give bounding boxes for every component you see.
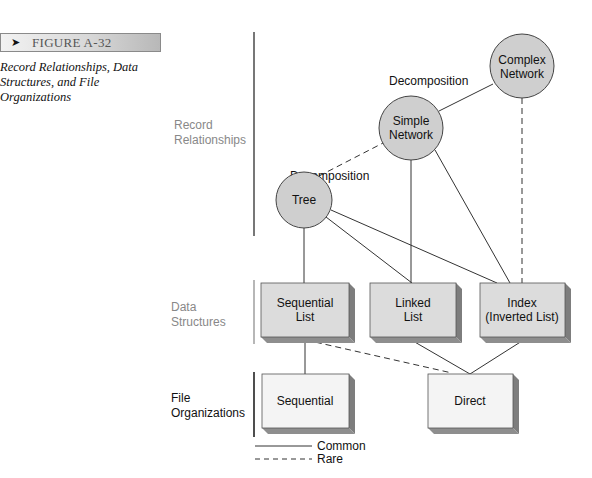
- node-label: Sequential: [277, 296, 334, 310]
- node-direct-file: Direct: [428, 374, 519, 434]
- edge-simple-complex-network: [439, 84, 493, 111]
- node-label: (Inverted List): [485, 310, 558, 324]
- node-label: List: [404, 310, 423, 324]
- legend-label-rare: Rare: [317, 452, 343, 466]
- node-sequential-list: Sequential List: [261, 283, 355, 343]
- node-label: Sequential: [277, 394, 334, 408]
- edge-tree-index: [331, 210, 497, 283]
- node-label: List: [296, 310, 315, 324]
- node-label: Direct: [454, 394, 486, 408]
- node-label: Network: [500, 67, 545, 81]
- node-label: Simple: [393, 114, 430, 128]
- node-simple-network: Simple Network: [379, 96, 443, 160]
- node-label: Network: [389, 128, 434, 142]
- node-label: Tree: [292, 193, 317, 207]
- node-index-inverted-list: Index (Inverted List): [480, 283, 571, 343]
- edge-label-decomposition: Decomposition: [389, 74, 468, 88]
- node-sequential-file: Sequential: [262, 374, 355, 434]
- edge-simple-network-index: [435, 150, 510, 283]
- edge-index-direct: [470, 341, 522, 374]
- edge-sequential-list-direct: [306, 340, 452, 373]
- node-label: Linked: [395, 296, 430, 310]
- legend: Common Rare: [255, 439, 366, 466]
- legend-label-common: Common: [317, 439, 366, 453]
- edge-linked-list-direct: [413, 341, 470, 374]
- diagram-canvas: Decomposition Decomposition Tree Simple …: [0, 0, 592, 478]
- node-label: Index: [507, 296, 536, 310]
- node-label: Complex: [498, 53, 545, 67]
- node-tree: Tree: [276, 172, 332, 228]
- node-complex-network: Complex Network: [490, 34, 554, 98]
- node-linked-list: Linked List: [370, 283, 462, 343]
